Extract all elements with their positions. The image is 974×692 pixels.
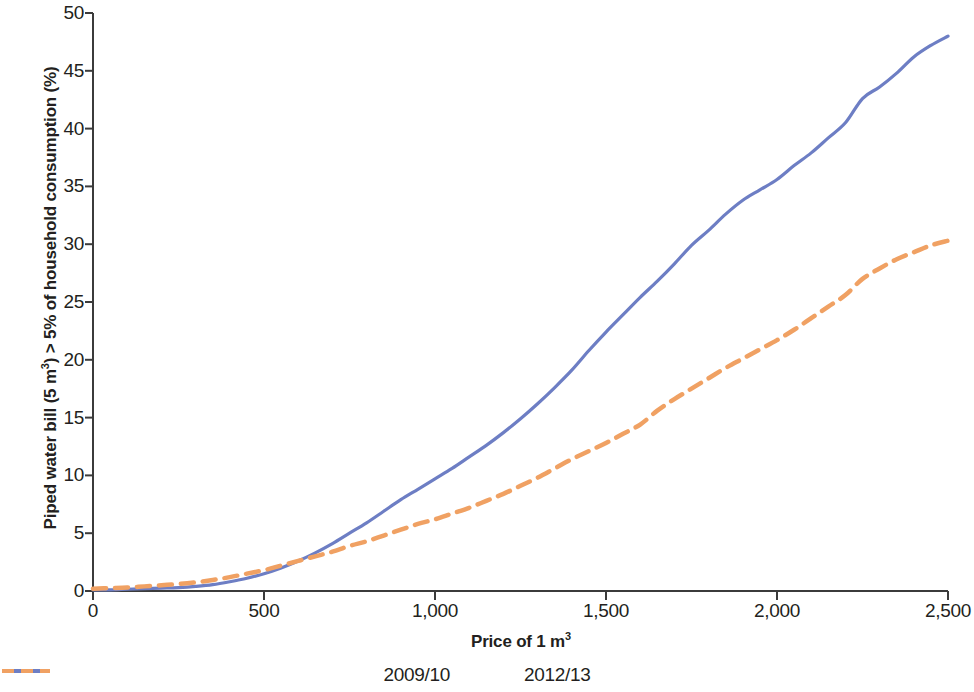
legend-item-2012-13[interactable]: 2012/13 (524, 664, 591, 686)
x-axis-tick-label: 2,500 (898, 600, 974, 622)
legend-label-2009-10: 2009/10 (383, 664, 450, 686)
x-axis-tick-label: 2,000 (727, 600, 827, 622)
legend-item-2009-10[interactable]: 2009/10 (383, 664, 450, 686)
x-axis-tick-label: 0 (43, 600, 143, 622)
legend-line-swatch-dashed (0, 664, 52, 678)
plot-area (0, 0, 974, 692)
chart-figure: 05101520253035404550 Piped water bill (5… (0, 0, 974, 692)
series-line-2009-10 (93, 36, 948, 590)
chart-legend: 2009/10 2012/13 (0, 664, 974, 686)
x-axis-tick-label: 1,500 (556, 600, 656, 622)
series-line-2012-13 (93, 241, 948, 589)
x-axis-tick-label: 500 (214, 600, 314, 622)
x-axis-tick-label: 1,000 (385, 600, 485, 622)
legend-label-2012-13: 2012/13 (524, 664, 591, 686)
